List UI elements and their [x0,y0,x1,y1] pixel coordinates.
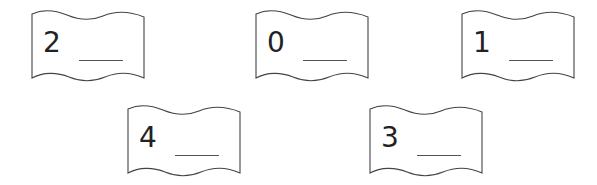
card-digit: 0 [267,26,285,60]
answer-blank[interactable] [303,60,347,61]
number-card-1: 2 [31,10,145,82]
card-digit: 1 [473,26,491,60]
number-card-5: 3 [369,105,483,177]
card-digit: 2 [43,26,61,60]
number-card-4: 4 [127,105,241,177]
number-card-2: 0 [255,10,369,82]
answer-blank[interactable] [175,155,219,156]
card-digit: 3 [381,121,399,155]
number-card-3: 1 [461,10,575,82]
answer-blank[interactable] [417,155,461,156]
answer-blank[interactable] [79,60,123,61]
answer-blank[interactable] [509,60,553,61]
card-digit: 4 [139,121,157,155]
